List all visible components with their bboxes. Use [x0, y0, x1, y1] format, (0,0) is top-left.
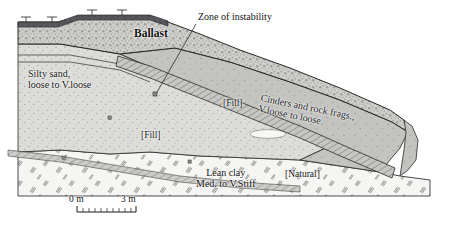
- scale-bar: [77, 206, 136, 212]
- figure-canvas: Ballast Zone of instability Silty sand, …: [0, 0, 453, 227]
- cross-section-drawing: [0, 0, 453, 227]
